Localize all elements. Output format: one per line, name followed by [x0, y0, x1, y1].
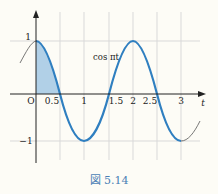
x-tick-2: 2	[130, 96, 136, 106]
y-tick-neg1: −1	[19, 136, 32, 146]
x-tick-3: 3	[178, 96, 184, 106]
x-axis-label: t	[201, 98, 205, 108]
x-axis-arrow-icon	[198, 91, 206, 97]
function-label: cos πt	[93, 52, 120, 62]
y-tick-1: 1	[25, 32, 31, 42]
x-tick-0-5: 0.5	[45, 96, 60, 106]
origin-label: O	[27, 96, 34, 106]
x-tick-2-5: 2.5	[143, 96, 158, 106]
figure-caption: 図 5.14	[0, 171, 218, 187]
y-axis-arrow-icon	[33, 10, 39, 18]
thin-curve-right	[181, 121, 200, 141]
x-tick-1-5: 1.5	[109, 96, 124, 106]
cos-graph: 1 −1 O 0.5 1 1.5 2 2.5 3 t cos πt	[0, 0, 218, 194]
shaded-region	[36, 41, 60, 94]
thin-curve-left	[20, 41, 36, 63]
x-tick-1: 1	[81, 96, 87, 106]
